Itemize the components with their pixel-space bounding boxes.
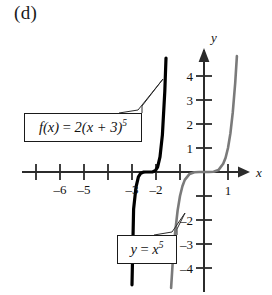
equation-fx-lhs: f(x) (39, 119, 59, 135)
equation-text-fx: f(x) = 2(x + 3)5 (39, 120, 127, 135)
svg-text:–5: –5 (77, 182, 91, 197)
svg-text:1: 1 (225, 183, 232, 198)
x-axis-label: x (255, 165, 262, 180)
svg-text:–2: –2 (149, 182, 163, 197)
svg-text:–6: –6 (53, 182, 68, 197)
svg-text:–4: –4 (179, 261, 194, 276)
svg-text:–3: –3 (179, 237, 193, 252)
figure-container: (d) (0, 0, 272, 295)
svg-text:–2: –2 (179, 213, 193, 228)
equation-box-yx5: y = x5 (117, 235, 177, 264)
equation-box-fx: f(x) = 2(x + 3)5 (24, 113, 142, 142)
equation-yx5-equals: = (137, 241, 152, 257)
equation-fx-rhs: 2(x + 3) (75, 119, 123, 135)
svg-text:4: 4 (187, 69, 194, 84)
equation-fx-exponent: 5 (122, 118, 127, 128)
svg-text:–3: –3 (125, 182, 139, 197)
equation-yx5-exponent: 5 (159, 240, 164, 250)
y-axis-label: y (209, 30, 217, 45)
equation-text-yx5: y = x5 (130, 242, 163, 257)
callout-leader-fx (119, 79, 163, 113)
svg-text:3: 3 (187, 93, 194, 108)
svg-text:1: 1 (187, 141, 194, 156)
y-axis (199, 48, 210, 292)
equation-fx-equals: = (59, 119, 74, 135)
svg-text:2: 2 (187, 117, 194, 132)
